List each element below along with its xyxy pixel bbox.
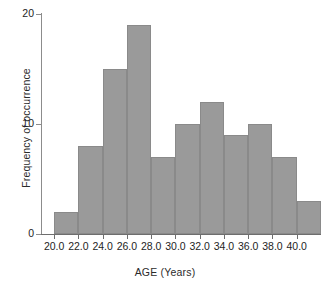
- histogram-bar: [224, 135, 248, 234]
- y-tick-mark: [36, 234, 41, 235]
- x-axis-line: [41, 234, 321, 235]
- y-tick-mark: [36, 124, 41, 125]
- x-tick-mark: [127, 235, 128, 239]
- x-tick-mark: [248, 235, 249, 239]
- y-tick-label: 20: [0, 7, 34, 19]
- x-tick-mark: [151, 235, 152, 239]
- x-tick-mark: [297, 235, 298, 239]
- histogram-bar: [200, 102, 224, 234]
- histogram-bar: [54, 212, 78, 234]
- x-tick-mark: [103, 235, 104, 239]
- histogram-figure: Frequency of occurrence 01020 20.022.024…: [0, 0, 330, 292]
- histogram-bar: [151, 157, 175, 234]
- y-tick-mark: [36, 14, 41, 15]
- histogram-bar: [78, 146, 102, 234]
- y-tick-label: 10: [0, 117, 34, 129]
- x-tick-label: 40.0: [277, 240, 317, 252]
- bar-series: [42, 14, 321, 234]
- histogram-bar: [127, 25, 151, 234]
- x-tick-mark: [54, 235, 55, 239]
- x-tick-mark: [272, 235, 273, 239]
- x-tick-mark: [224, 235, 225, 239]
- y-tick-label: 0: [0, 227, 34, 239]
- histogram-bar: [248, 124, 272, 234]
- x-tick-mark: [78, 235, 79, 239]
- x-axis-title: AGE (Years): [0, 266, 330, 278]
- x-tick-mark: [200, 235, 201, 239]
- histogram-bar: [272, 157, 296, 234]
- histogram-bar: [175, 124, 199, 234]
- histogram-bar: [297, 201, 321, 234]
- x-tick-mark: [175, 235, 176, 239]
- histogram-bar: [103, 69, 127, 234]
